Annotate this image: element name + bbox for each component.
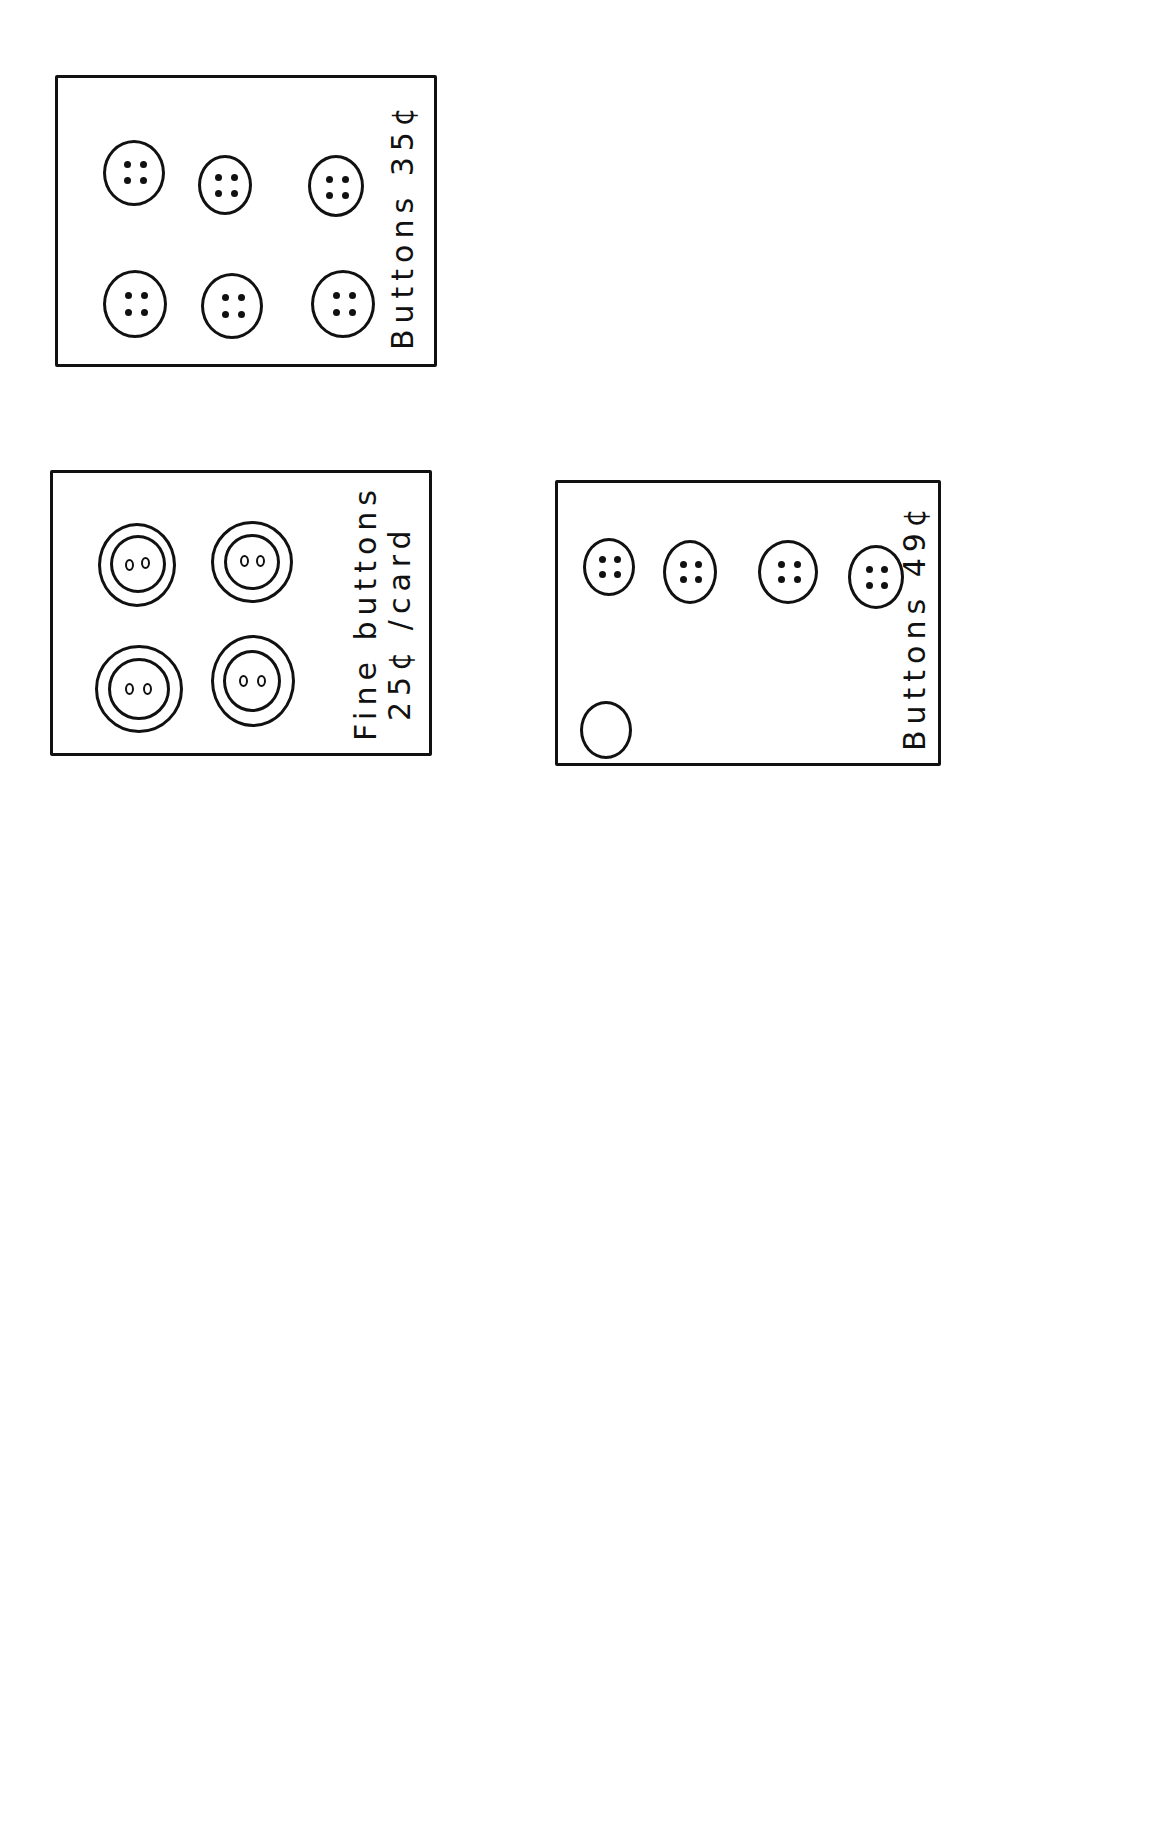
- card-price-label: Fine buttons 25¢ /card: [349, 484, 417, 741]
- fine-button-icon: [95, 645, 183, 733]
- four-hole-button-icon: [580, 701, 632, 759]
- card-price-label: Buttons 49¢: [898, 502, 932, 751]
- four-hole-button-icon: [311, 270, 375, 338]
- four-hole-button-icon: [103, 270, 167, 338]
- four-hole-button-icon: [663, 540, 717, 604]
- four-hole-button-icon: [758, 540, 818, 604]
- fine-button-icon: [211, 521, 293, 603]
- label-line-1: Buttons 35¢: [386, 101, 420, 350]
- button-card-1: Buttons 35¢: [55, 75, 437, 367]
- label-line-2: 25¢ /card: [383, 484, 417, 741]
- four-hole-button-icon: [848, 545, 904, 609]
- four-hole-button-icon: [583, 538, 635, 596]
- button-card-2: Fine buttons 25¢ /card: [50, 470, 432, 756]
- four-hole-button-icon: [198, 155, 252, 215]
- label-line-1: Fine buttons: [349, 484, 383, 741]
- four-hole-button-icon: [103, 140, 165, 206]
- four-hole-button-icon: [201, 273, 263, 339]
- fine-button-icon: [211, 635, 295, 727]
- button-card-3: Buttons 49¢: [555, 480, 941, 766]
- card-price-label: Buttons 35¢: [386, 101, 420, 350]
- label-line-1: Buttons 49¢: [898, 502, 932, 751]
- fine-button-icon: [98, 523, 176, 607]
- four-hole-button-icon: [308, 155, 364, 217]
